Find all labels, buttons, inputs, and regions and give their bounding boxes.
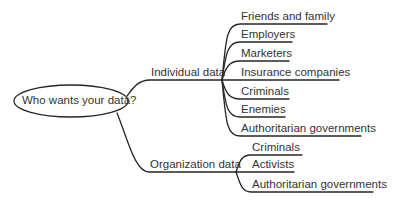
branch-organization-data: Organization data — [150, 158, 241, 171]
root-node-label: Who wants your data? — [22, 94, 136, 107]
leaf-org-criminals: Criminals — [252, 141, 300, 154]
leaf-insurance-companies: Insurance companies — [241, 66, 350, 79]
leaf-org-authoritarian-governments: Authoritarian governments — [252, 178, 387, 191]
leaf-employers: Employers — [241, 28, 295, 41]
connector-root-individual — [127, 80, 222, 96]
mind-map: Who wants your data? Individual data Org… — [0, 0, 410, 204]
leaf-enemies: Enemies — [241, 103, 286, 116]
leaf-org-activists: Activists — [252, 158, 294, 171]
branch-individual-data: Individual data — [151, 66, 225, 79]
leaf-marketers: Marketers — [241, 47, 292, 60]
leaf-friends-and-family: Friends and family — [241, 10, 335, 23]
leaf-authoritarian-governments: Authoritarian governments — [241, 122, 376, 135]
leaf-criminals: Criminals — [241, 85, 289, 98]
